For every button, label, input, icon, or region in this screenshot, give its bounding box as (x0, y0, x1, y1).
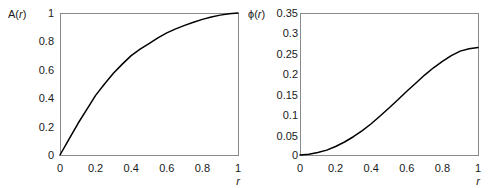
y-tick-label: 0.6 (39, 64, 54, 76)
x-tick-label: 0.8 (435, 162, 450, 174)
x-axis-label-left: r (236, 175, 241, 187)
x-tick-label: 0.6 (399, 162, 414, 174)
y-tick-label: 0.35 (277, 7, 298, 19)
y-tick-label: 0 (292, 149, 298, 161)
x-tick-label: 1 (235, 162, 241, 174)
y-tick-label: 0.1 (283, 109, 298, 121)
y-tick-label: 0.15 (277, 89, 298, 101)
x-axis-label-right: r (476, 175, 481, 187)
plot-frame (61, 14, 239, 156)
plot-right-svg: ϕ(r) 0.35 0.3 0.25 0.2 0.15 0.1 0.05 0 0… (246, 0, 492, 188)
y-tick-label: 0.05 (277, 130, 298, 142)
chart-panel-left: A(r) 1 0.8 0.6 0.4 0.2 0 0 0.2 0.4 0.6 0… (0, 0, 246, 188)
y-axis-label-left: A(r) (8, 8, 26, 20)
chart-panel-right: ϕ(r) 0.35 0.3 0.25 0.2 0.15 0.1 0.05 0 0… (246, 0, 492, 188)
x-tick-label: 0.4 (364, 162, 379, 174)
y-tick-label: 0.2 (39, 121, 54, 133)
plot-frame (301, 14, 479, 156)
x-tick-label: 0.2 (88, 162, 103, 174)
y-tick-label: 0.3 (283, 27, 298, 39)
y-tick-label: 1 (48, 7, 54, 19)
y-tick-label: 0.25 (277, 48, 298, 60)
y-tick-label: 0.8 (39, 35, 54, 47)
y-tick-label: 0.2 (283, 68, 298, 80)
y-tick-label: 0.4 (39, 92, 54, 104)
x-tick-label: 0.2 (328, 162, 343, 174)
data-curve-phi (300, 47, 478, 155)
x-tick-label: 0 (57, 162, 63, 174)
data-curve-A (60, 13, 238, 155)
figure-two-panel-plot: A(r) 1 0.8 0.6 0.4 0.2 0 0 0.2 0.4 0.6 0… (0, 0, 492, 188)
x-tick-label: 1 (475, 162, 481, 174)
y-axis-label-right: ϕ(r) (248, 8, 265, 20)
x-tick-label: 0.4 (124, 162, 139, 174)
x-tick-label: 0.6 (159, 162, 174, 174)
x-tick-label: 0 (297, 162, 303, 174)
y-tick-label: 0 (48, 149, 54, 161)
plot-left-svg: A(r) 1 0.8 0.6 0.4 0.2 0 0 0.2 0.4 0.6 0… (0, 0, 246, 188)
x-tick-label: 0.8 (195, 162, 210, 174)
